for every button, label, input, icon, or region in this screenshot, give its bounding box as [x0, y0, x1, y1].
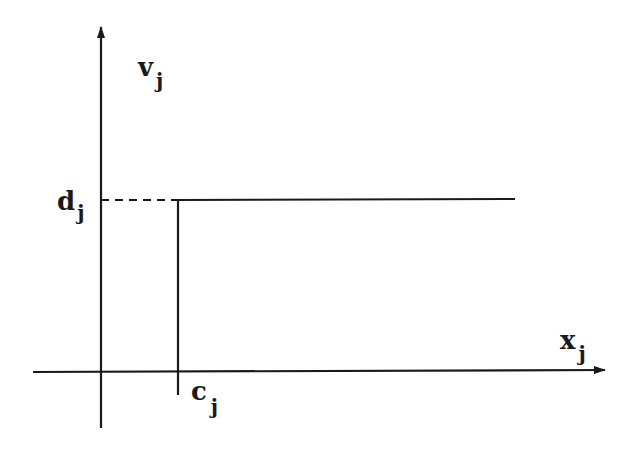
step-function-diagram: vj dj xj cj [0, 0, 629, 449]
level-label: dj [57, 186, 84, 225]
threshold-label: cj [191, 376, 218, 419]
step-plateau [177, 199, 515, 200]
y-axis-label: vj [137, 52, 163, 93]
x-axis-label: xj [560, 325, 586, 366]
x-axis [33, 370, 605, 372]
